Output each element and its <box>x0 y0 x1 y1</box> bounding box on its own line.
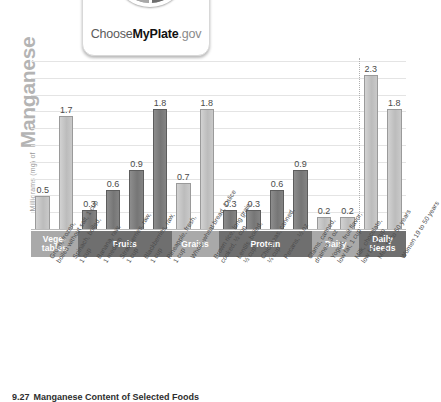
choose-myplate-logo: ChooseMyPlate.gov <box>82 0 210 56</box>
x-axis-tick-labels: Green, frozen,boiled without salt, 1 cup… <box>0 256 411 374</box>
gridline <box>31 95 406 96</box>
gridline <box>31 128 406 129</box>
myplate-plate-icon <box>113 0 187 7</box>
myplate-wordmark: ChooseMyPlate.gov <box>83 27 209 41</box>
logo-word-gov: .gov <box>178 27 201 41</box>
gridline <box>31 111 406 112</box>
bar: 1.8 <box>153 109 168 230</box>
logo-word-myplate: MyPlate <box>133 27 179 41</box>
bar-value-label: 1.7 <box>60 105 73 115</box>
bar: 1.8 <box>200 109 215 230</box>
bar: 1.7 <box>59 116 74 230</box>
bar: 2.3 <box>364 75 379 230</box>
figure-number: 9.27 <box>12 392 30 402</box>
gridline <box>31 162 406 163</box>
bar-value-label: 1.8 <box>388 98 401 108</box>
bar-value-label: 2.3 <box>365 64 378 74</box>
bar-value-label: 0.9 <box>130 159 143 169</box>
bar-value-label: 0.2 <box>318 206 331 216</box>
bar-value-label: 0.9 <box>294 159 307 169</box>
gridline <box>31 61 406 62</box>
bar: 0.5 <box>35 196 50 230</box>
bar-value-label: 0.2 <box>341 206 354 216</box>
figure-caption-text: Manganese Content of Selected Foods <box>34 392 200 402</box>
bar-value-label: 1.8 <box>154 98 167 108</box>
gridline <box>31 78 406 79</box>
bar-value-label: 0.5 <box>36 185 49 195</box>
bar-value-label: 0.7 <box>177 172 190 182</box>
bar: 1.8 <box>387 109 402 230</box>
figure-caption: 9.27Manganese Content of Selected Foods <box>12 392 411 402</box>
bar-value-label: 1.8 <box>201 98 214 108</box>
gridline <box>31 145 406 146</box>
daily-needs-divider <box>359 58 360 230</box>
bar-value-label: 0.6 <box>271 179 284 189</box>
bar-value-label: 0.6 <box>107 179 120 189</box>
logo-word-choose: Choose <box>91 27 133 41</box>
gridline <box>31 179 406 180</box>
